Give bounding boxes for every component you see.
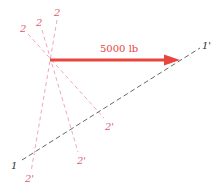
section-line-c (31, 20, 57, 172)
label-2-prime-a: 2' (104, 121, 114, 132)
label-2-a: 2 (19, 23, 26, 34)
arrowhead-icon (164, 55, 180, 66)
reference-line (22, 48, 200, 160)
label-2-b: 2 (35, 17, 42, 28)
label-1-prime: 1' (202, 40, 211, 51)
label-2-prime-c: 2' (24, 173, 34, 184)
label-1: 1 (11, 160, 17, 171)
force-diagram: 5000 lb 1 1' 2 2 2 2' 2' 2' (0, 0, 219, 194)
section-line-b (42, 30, 78, 152)
force-label: 5000 lb (100, 43, 138, 54)
label-2-prime-b: 2' (76, 155, 86, 166)
label-2-c: 2 (53, 7, 60, 18)
section-line-a (28, 34, 104, 118)
